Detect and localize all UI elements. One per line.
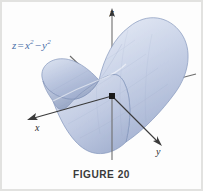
equation-term2-exponent: 2	[47, 38, 51, 46]
surface-body	[42, 18, 188, 154]
scan-edge-bottom	[0, 189, 203, 191]
equation-operator: −	[34, 39, 42, 51]
x-axis-arrowhead	[27, 113, 38, 120]
figure-caption: FIGURE 20	[12, 168, 191, 180]
origin-marker	[109, 93, 115, 99]
z-axis-label: z	[110, 7, 114, 18]
x-axis-label: x	[35, 122, 39, 133]
saddle-surface-svg	[0, 0, 203, 166]
equation-label: z=x2−y2	[12, 39, 51, 51]
y-axis-label: y	[156, 146, 160, 157]
figure-container: z=x2−y2 x y z FIGURE 20	[0, 0, 203, 191]
y-axis-arrowhead	[153, 136, 162, 146]
saddle-surface-plot	[0, 0, 203, 166]
equation-equals: =	[16, 39, 24, 51]
